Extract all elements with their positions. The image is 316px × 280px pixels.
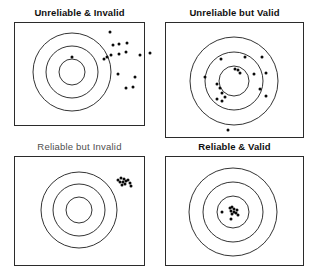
panel-title-unreliable-valid: Unreliable but Valid [159,7,310,19]
shot-marker [129,182,132,185]
shot-marker [221,100,224,103]
shot-marker [231,213,234,216]
shot-marker [265,72,268,75]
panel-reliable-valid: Reliable & Valid [159,141,310,266]
reliability-validity-figure: Unreliable & InvalidUnreliable but Valid… [0,0,316,280]
shot-marker [259,88,262,91]
shot-marker [110,54,113,57]
shot-marker [125,51,128,54]
panel-unreliable-valid: Unreliable but Valid [159,7,310,138]
shot-marker [139,54,142,57]
target-reliable-valid [165,156,304,266]
shot-marker [118,53,121,56]
shot-marker [261,56,264,59]
shot-marker [127,179,130,182]
target-ring-middle [53,184,105,236]
shot-marker [109,31,112,34]
shot-marker [234,68,237,71]
target-ring-middle [205,52,263,110]
panel-title-reliable-valid: Reliable & Valid [159,141,310,153]
shot-marker [237,214,240,217]
shot-marker [230,210,233,213]
panel-title-unreliable-invalid: Unreliable & Invalid [8,7,151,19]
shot-marker [237,69,240,72]
shot-marker [149,52,152,55]
shot-marker [265,95,268,98]
target-ring-inner [59,59,85,85]
panel-reliable-invalid: Reliable but Invalid [8,141,151,266]
shot-marker [112,44,115,47]
shot-marker [125,87,128,90]
target-unreliable-invalid [14,22,145,126]
target-ring-outer [33,33,111,111]
shot-marker [118,43,121,46]
shot-marker [239,72,242,75]
shot-marker [132,86,135,89]
shot-marker [216,98,219,101]
target-ring-outer [190,37,278,125]
shot-marker [230,218,233,221]
shot-marker [204,76,207,79]
target-unreliable-valid [165,22,304,138]
shot-marker [119,181,122,184]
panel-unreliable-invalid: Unreliable & Invalid [8,7,151,126]
shot-marker [220,58,223,61]
shot-marker [117,73,120,76]
shot-marker [253,73,256,76]
shot-marker [244,56,247,59]
shot-marker [106,56,109,59]
target-reliable-invalid [14,156,145,266]
shot-marker [134,76,137,79]
shot-marker [227,129,230,132]
shot-marker [124,183,127,186]
shot-marker [219,87,222,90]
shot-marker [130,185,133,188]
shot-marker [120,177,123,180]
shot-marker [236,209,239,212]
shot-marker [126,42,129,45]
shot-marker [224,96,227,99]
panel-title-reliable-invalid: Reliable but Invalid [8,141,151,153]
shot-marker [233,208,236,211]
shot-marker [216,83,219,86]
target-ring-inner [219,66,249,96]
target-ring-middle [46,46,98,98]
shot-marker [71,56,74,59]
target-ring-outer [41,172,117,248]
shot-marker [221,92,224,95]
shot-marker [121,184,124,187]
shot-marker [221,211,224,214]
target-ring-inner [66,197,92,223]
shot-marker [103,58,106,61]
